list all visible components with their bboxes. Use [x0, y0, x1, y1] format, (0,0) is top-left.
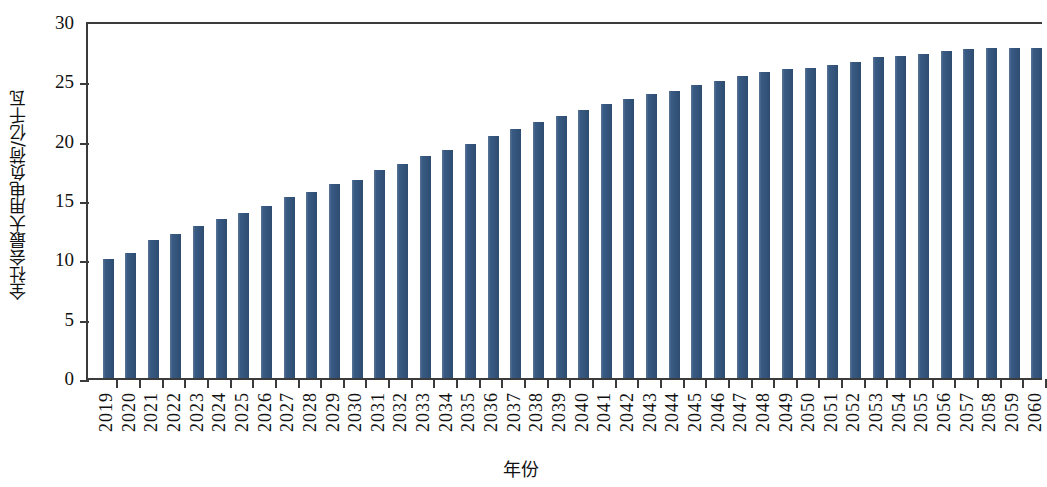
x-axis-tick-mark [818, 379, 820, 388]
bar [986, 48, 997, 379]
x-axis-tick-label: 2053 [867, 392, 885, 432]
y-axis-title: 全社会最大用电负荷/亿千瓦 [0, 0, 34, 390]
x-axis-tick-mark [660, 379, 662, 388]
x-axis-tick-mark [932, 379, 934, 388]
x-axis-tick-label: 2030 [346, 392, 364, 432]
x-axis-tick-label: 2027 [278, 392, 296, 432]
x-axis-tick-mark [909, 379, 911, 388]
bar [125, 253, 136, 379]
x-axis-tick-mark [773, 379, 775, 388]
x-axis-tick-mark [184, 379, 186, 388]
bar [873, 57, 884, 379]
bar [306, 192, 317, 379]
bar [352, 180, 363, 379]
bar [941, 51, 952, 379]
bar [691, 85, 702, 379]
y-axis-tick-label: 30 [55, 13, 74, 32]
x-axis-tick-mark [954, 379, 956, 388]
x-axis-tick-label: 2047 [731, 392, 749, 432]
bar [488, 136, 499, 379]
x-axis-tick-mark [207, 379, 209, 388]
x-axis-tick-label: 2026 [256, 392, 274, 432]
bar [556, 116, 567, 379]
y-axis-tick-mark [80, 202, 89, 204]
x-axis-tick-label: 2022 [165, 392, 183, 432]
bar [963, 49, 974, 379]
x-axis-tick-mark [728, 379, 730, 388]
bar [193, 226, 204, 379]
x-axis-title: 年份 [0, 455, 1042, 481]
x-axis-tick-label: 2046 [709, 392, 727, 432]
y-axis-tick-mark [80, 143, 89, 145]
x-axis-tick-label: 2048 [754, 392, 772, 432]
x-axis-tick-mark [139, 379, 141, 388]
x-axis-tick-mark [841, 379, 843, 388]
bar [827, 65, 838, 379]
x-axis-tick-label: 2028 [301, 392, 319, 432]
bar [601, 104, 612, 379]
y-axis-tick-labels: 051015202530 [34, 0, 80, 390]
x-axis-tick-mark [705, 379, 707, 388]
bar [669, 91, 680, 379]
x-axis-tick-mark [751, 379, 753, 388]
bar [759, 72, 770, 379]
x-axis-tick-label: 2034 [437, 392, 455, 432]
x-axis-tick-mark [275, 379, 277, 388]
y-axis-title-text: 全社会最大用电负荷/亿千瓦 [5, 90, 30, 300]
x-axis-tick-mark [1022, 379, 1024, 388]
bar [148, 240, 159, 379]
bar [1031, 48, 1042, 379]
x-axis-tick-mark [411, 379, 413, 388]
x-axis-tick-label: 2045 [686, 392, 704, 432]
x-axis-tick-label: 2024 [210, 392, 228, 432]
bar [397, 164, 408, 379]
x-axis-tick-mark [116, 379, 118, 388]
bar [465, 144, 476, 379]
x-axis-tick-mark [501, 379, 503, 388]
bar [850, 62, 861, 379]
x-axis-tick-mark [886, 379, 888, 388]
bar [737, 76, 748, 379]
x-axis-tick-mark [252, 379, 254, 388]
bar [510, 129, 521, 379]
x-axis-tick-label: 2039 [550, 392, 568, 432]
x-axis-tick-mark [343, 379, 345, 388]
x-axis-tick-label: 2041 [595, 392, 613, 432]
x-axis-tick-mark [456, 379, 458, 388]
x-axis-tick-mark [864, 379, 866, 388]
bar [170, 234, 181, 379]
x-axis-tick-label: 2050 [799, 392, 817, 432]
x-axis-tick-mark [320, 379, 322, 388]
y-axis-tick-label: 0 [65, 369, 75, 388]
bar [578, 110, 589, 379]
bar [805, 68, 816, 379]
x-axis-tick-label: 2021 [142, 392, 160, 432]
y-axis-tick-mark [80, 83, 89, 85]
bar [918, 54, 929, 379]
x-axis-tick-label: 2036 [482, 392, 500, 432]
x-axis-tick-label: 2040 [573, 392, 591, 432]
plot-area [86, 22, 1042, 379]
x-axis-tick-mark [683, 379, 685, 388]
x-axis-tick-label: 2059 [1003, 392, 1021, 432]
x-axis-tick-label: 2023 [188, 392, 206, 432]
x-axis-tick-label: 2044 [663, 392, 681, 432]
x-axis-tick-mark [388, 379, 390, 388]
x-axis-tick-mark [230, 379, 232, 388]
x-axis-tick-label: 2051 [822, 392, 840, 432]
y-axis-tick-label: 20 [55, 131, 74, 150]
bar [103, 259, 114, 379]
y-axis-tick-label: 5 [65, 309, 75, 328]
x-axis-tick-mark [569, 379, 571, 388]
x-axis-tick-label: 2056 [935, 392, 953, 432]
x-axis-tick-label: 2019 [97, 392, 115, 432]
x-axis-tick-label: 2057 [958, 392, 976, 432]
bar [374, 170, 385, 379]
x-axis-tick-label: 2055 [912, 392, 930, 432]
x-axis-tick-label: 2032 [391, 392, 409, 432]
x-axis-tick-mark [615, 379, 617, 388]
x-axis-tick-label: 2031 [369, 392, 387, 432]
bar [1009, 48, 1020, 379]
bar [238, 213, 249, 379]
